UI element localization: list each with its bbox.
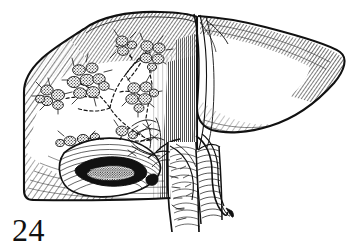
liver-anatomical-illustration: Anatomical line drawing of the liver wit… <box>0 0 356 250</box>
figure-number: 24 <box>12 214 45 246</box>
figure-container: Anatomical line drawing of the liver wit… <box>0 0 356 250</box>
